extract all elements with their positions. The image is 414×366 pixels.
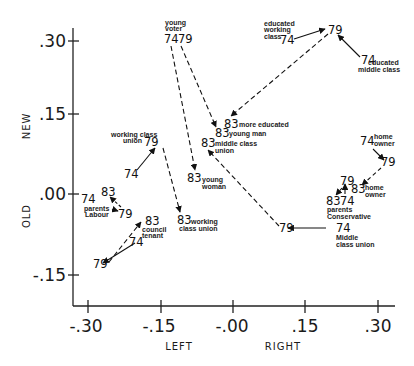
x-axis-title-left: LEFT [165, 341, 193, 352]
y-tick-label: -.15 [33, 265, 66, 285]
y-axis-title-bottom: OLD [21, 204, 32, 228]
x-tick-label: -.00 [215, 316, 248, 336]
group-parents-labour: 74 83 79 parents Labour [81, 185, 133, 221]
y-tick-labels: .30 .15 .00 -.15 [33, 31, 66, 285]
label: more educated [239, 121, 289, 128]
label: class union [336, 241, 375, 248]
scatter-chart: .30 .15 .00 -.15 -.30 -.15 -.00 .15 .30 … [0, 0, 414, 366]
year-marker: 83 [187, 171, 202, 185]
label: voter [165, 25, 182, 32]
year-marker: 74 [129, 235, 144, 249]
year-marker: 74 [336, 221, 351, 235]
year-marker: 74 [164, 32, 179, 46]
label: Conservative [327, 213, 371, 220]
group-young-woman: 83 young woman [187, 171, 226, 190]
group-working-class-union: working class union 79 74 [110, 131, 159, 181]
year-marker: 79 [340, 174, 355, 188]
group-educated-middle-class: 74 educated middle class [358, 53, 400, 73]
x-tick-label: .15 [291, 316, 318, 336]
x-tick-label: -.30 [69, 316, 102, 336]
label: owner [374, 140, 395, 147]
year-marker: 79 [93, 257, 108, 271]
year-marker: 74 [81, 192, 96, 206]
x-tick-label: -.15 [142, 316, 175, 336]
group-working-class-union-83: 83 working class union [177, 213, 218, 232]
year-marker: 79 [144, 135, 159, 149]
label: tenant [142, 232, 164, 239]
label: middle class [358, 66, 400, 73]
label: union [123, 137, 142, 144]
label: woman [201, 183, 226, 190]
year-marker: 79 [178, 32, 193, 46]
x-tick-label: .30 [364, 316, 391, 336]
label: union [215, 147, 234, 154]
group-young-voter: young voter 74 79 [164, 19, 193, 46]
year-marker: 83 [101, 185, 116, 199]
label: educated [368, 59, 399, 66]
y-tick-label: .00 [39, 184, 66, 204]
year-marker: 74 [124, 167, 139, 181]
x-axis-title-right: RIGHT [265, 341, 301, 352]
label: Middle [336, 234, 358, 241]
year-marker: 79 [279, 221, 294, 235]
x-tick-labels: -.30 -.15 -.00 .15 .30 [69, 316, 391, 336]
group-middle-class-union: 79 74 Middle class union [279, 221, 375, 248]
year-marker: 79 [381, 155, 396, 169]
year-marker: 74 [280, 33, 295, 47]
year-marker: 74 [360, 134, 375, 148]
group-home-owner-83: 83 home owner [351, 182, 386, 198]
year-marker: 79 [328, 23, 343, 37]
group-council-tenant: 83 council tenant 74 79 [93, 214, 167, 271]
label: Labour [85, 211, 109, 218]
y-tick-label: .15 [39, 104, 66, 124]
group-educated-working-class: educated working class 74 79 [263, 20, 343, 47]
label: owner [365, 191, 386, 198]
label: class [264, 33, 282, 40]
label: middle class [215, 140, 257, 147]
label: class union [179, 225, 218, 232]
year-marker: 83 [215, 126, 230, 140]
axes [68, 28, 395, 313]
label: home [374, 133, 393, 140]
y-tick-label: .30 [39, 31, 66, 51]
label: young man [229, 130, 266, 138]
group-home-owner: 74 home owner 79 [360, 133, 396, 169]
year-marker: 83 [201, 136, 216, 150]
y-axis-title-top: NEW [21, 113, 32, 140]
year-marker: 79 [118, 207, 133, 221]
label: home [365, 184, 384, 191]
